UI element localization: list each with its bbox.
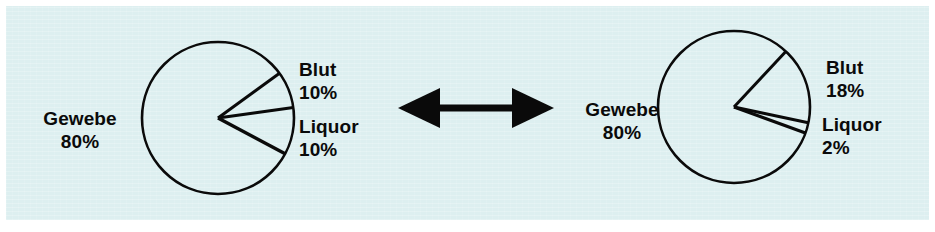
figure-page: Gewebe 80% Blut 10% Liquor 10% Gewebe 80… xyxy=(0,0,935,232)
right-label-blut: Blut 18% xyxy=(826,56,864,102)
left-label-liquor-name: Liquor xyxy=(299,116,359,137)
right-label-liquor: Liquor 2% xyxy=(822,113,882,159)
right-pie-chart xyxy=(658,31,810,183)
double-headed-arrow-icon xyxy=(398,88,554,128)
left-label-liquor: Liquor 10% xyxy=(299,115,359,161)
left-label-blut-value: 10% xyxy=(299,81,337,104)
arrow-head-right xyxy=(512,88,554,128)
left-label-liquor-value: 10% xyxy=(299,138,359,161)
right-label-gewebe-name: Gewebe xyxy=(585,99,658,120)
left-label-gewebe: Gewebe 80% xyxy=(28,107,132,153)
pie-comparison-figure xyxy=(0,0,935,232)
left-label-gewebe-value: 80% xyxy=(28,130,132,153)
right-label-blut-value: 18% xyxy=(826,79,864,102)
right-label-liquor-value: 2% xyxy=(822,136,882,159)
left-pie-chart xyxy=(142,42,294,194)
right-slice-divider-gewebe-blut xyxy=(734,51,786,107)
right-label-blut-name: Blut xyxy=(826,57,863,78)
left-slice-divider-liquor-gewebe xyxy=(218,118,285,154)
right-label-gewebe: Gewebe 80% xyxy=(570,98,674,144)
arrow-shaft xyxy=(430,105,522,112)
right-label-liquor-name: Liquor xyxy=(822,114,882,135)
left-label-blut-name: Blut xyxy=(299,59,336,80)
left-label-blut: Blut 10% xyxy=(299,58,337,104)
left-label-gewebe-name: Gewebe xyxy=(43,108,116,129)
arrow-head-left xyxy=(398,88,440,128)
right-label-gewebe-value: 80% xyxy=(570,121,674,144)
